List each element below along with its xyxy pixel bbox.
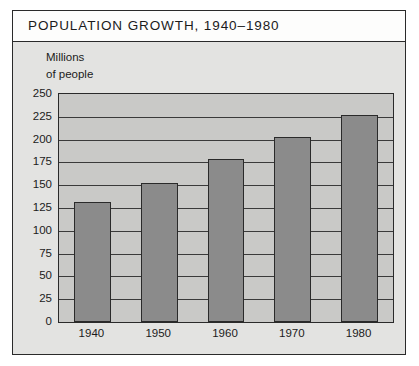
y-axis-caption: Millions of people xyxy=(46,49,93,83)
y-axis-tick-label: 125 xyxy=(33,201,52,213)
plot-area xyxy=(58,93,394,323)
y-axis-tick-label: 200 xyxy=(33,133,52,145)
y-axis-caption-line-1: Millions xyxy=(46,49,93,66)
y-axis-tick-label: 100 xyxy=(33,224,52,236)
y-axis-tick-label: 225 xyxy=(33,110,52,122)
y-axis-tick-labels: 2502252001751501251007550250 xyxy=(13,93,52,323)
y-axis-tick-label: 175 xyxy=(33,155,52,167)
y-axis-tick-label: 75 xyxy=(39,247,52,259)
x-axis-tick-label: 1940 xyxy=(79,327,105,339)
chart-title: POPULATION GROWTH, 1940–1980 xyxy=(28,18,280,33)
bar xyxy=(274,137,311,322)
y-axis-tick-label: 150 xyxy=(33,178,52,190)
x-axis-tick-label: 1980 xyxy=(346,327,372,339)
title-band: POPULATION GROWTH, 1940–1980 xyxy=(13,11,405,42)
chart-figure: POPULATION GROWTH, 1940–1980 Millions of… xyxy=(12,10,406,355)
x-axis-tick-label: 1960 xyxy=(212,327,238,339)
x-axis-tick-labels: 19401950196019701980 xyxy=(58,327,394,347)
bar xyxy=(141,183,178,322)
y-axis-caption-line-2: of people xyxy=(46,66,93,83)
bar xyxy=(341,115,378,322)
bar xyxy=(208,159,245,322)
x-axis-tick-label: 1950 xyxy=(145,327,171,339)
bar xyxy=(74,202,111,322)
x-axis-tick-label: 1970 xyxy=(279,327,305,339)
y-axis-tick-label: 25 xyxy=(39,292,52,304)
y-axis-tick-label: 250 xyxy=(33,87,52,99)
y-axis-tick-label: 50 xyxy=(39,269,52,281)
y-axis-tick-label: 0 xyxy=(46,315,52,327)
